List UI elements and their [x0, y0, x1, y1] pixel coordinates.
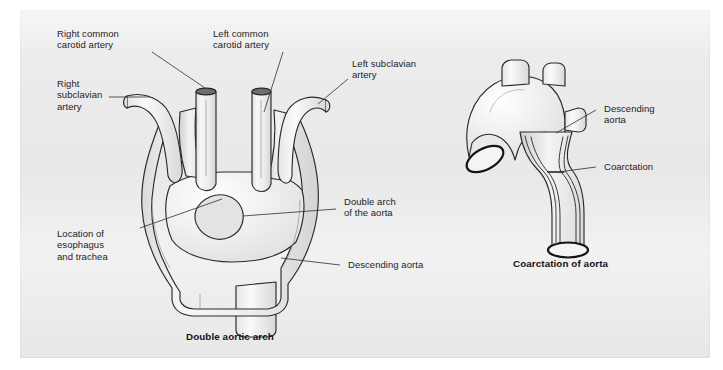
left-carotid-lumen	[252, 88, 271, 95]
left-subclavian-branch	[565, 108, 586, 132]
caption-double-aortic-arch: Double aortic arch	[186, 331, 274, 342]
label-coarctation: Coarctation	[604, 161, 653, 172]
label-descending-aorta-left: Descending aorta	[348, 259, 423, 270]
label-left-common-carotid-artery: Left common carotid artery	[213, 28, 269, 51]
leader-right-common-carotid	[152, 52, 205, 88]
caption-coarctation-of-aorta: Coarctation of aorta	[513, 258, 608, 269]
coarctation-of-aorta-drawing	[462, 60, 588, 258]
leader-left-common-carotid	[264, 52, 283, 112]
label-right-subclavian-artery: Right subclavian artery	[57, 78, 102, 112]
label-right-common-carotid-artery: Right common carotid artery	[57, 28, 119, 51]
left-common-carotid-artery	[252, 92, 271, 192]
label-double-arch-of-the-aorta: Double arch of the aorta	[344, 196, 396, 219]
leader-left-subclavian	[318, 79, 348, 104]
vascular-ring-opening	[195, 195, 243, 239]
brachiocephalic-branch	[502, 60, 529, 86]
label-left-subclavian-artery: Left subclavian artery	[352, 58, 416, 81]
descending-aorta-lumen	[548, 243, 588, 258]
label-location-of-esophagus-and-trachea: Location of esophagus and trachea	[57, 228, 108, 262]
left-carotid-branch	[543, 63, 565, 86]
label-descending-aorta-right: Descending aorta	[604, 103, 655, 126]
right-carotid-lumen	[196, 88, 216, 95]
right-subclavian-cut-edge	[124, 96, 127, 108]
left-subclavian-cut-edge	[326, 100, 330, 112]
double-aortic-arch-drawing	[124, 88, 330, 337]
anatomy-artwork	[0, 0, 723, 370]
figure-page: Right common carotid artery Right subcla…	[0, 0, 723, 370]
